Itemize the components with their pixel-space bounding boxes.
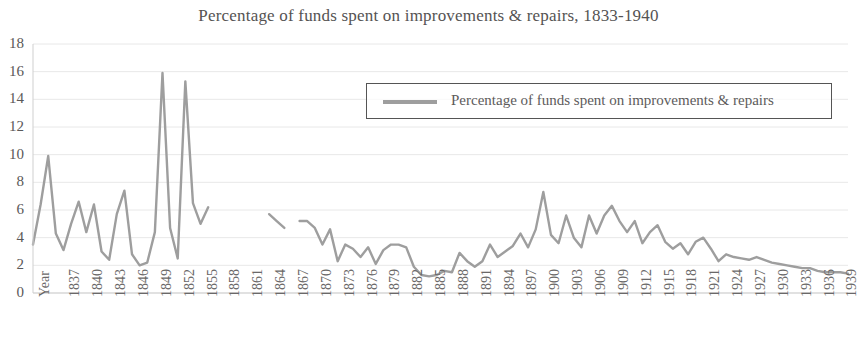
x-axis-tick-label: 1912 [640, 269, 654, 297]
x-axis-tick-label: 1939 [845, 269, 857, 297]
x-axis-tick-label: 1885 [434, 269, 448, 297]
y-axis-tick-label: 18 [2, 36, 24, 51]
x-axis-tick-label: 1936 [823, 269, 837, 297]
y-axis-tick-label: 12 [2, 119, 24, 134]
x-axis-tick-label: 1930 [777, 269, 791, 297]
x-axis-tick-label: 1921 [708, 269, 722, 297]
x-axis-tick-label: 1900 [548, 269, 562, 297]
series-line [300, 192, 848, 276]
x-axis-tick-label: 1852 [183, 269, 197, 297]
x-axis-tick-label: 1870 [320, 269, 334, 297]
x-axis-tick-label: 1933 [800, 269, 814, 297]
x-axis-tick-label: 1924 [731, 269, 745, 297]
x-axis-tick-label: 1897 [525, 269, 539, 297]
legend-line-swatch [383, 100, 437, 104]
x-axis-tick-label: 1927 [754, 269, 768, 297]
x-axis-tick-label: 1858 [228, 269, 242, 297]
x-axis-tick-label: Year [38, 271, 52, 297]
series-line [33, 73, 208, 265]
x-axis-tick-label: 1915 [663, 269, 677, 297]
x-axis-tick-label: 1861 [251, 269, 265, 297]
y-axis-tick-label: 0 [2, 285, 24, 300]
x-axis-tick-label: 1873 [343, 269, 357, 297]
x-axis-tick-label: 1888 [457, 269, 471, 297]
series-line [269, 214, 284, 228]
x-axis-tick-label: 1879 [388, 269, 402, 297]
x-axis-tick-label: 1891 [480, 269, 494, 297]
y-axis-tick-label: 10 [2, 147, 24, 162]
x-axis-tick-label: 1903 [571, 269, 585, 297]
y-axis-tick-label: 2 [2, 257, 24, 272]
x-axis-tick-label: 1894 [503, 269, 517, 297]
legend: Percentage of funds spent on improvement… [366, 83, 832, 119]
x-axis-tick-label: 1864 [274, 269, 288, 297]
x-axis-tick-label: 1906 [594, 269, 608, 297]
x-axis-tick-label: 1909 [617, 269, 631, 297]
chart-container: Percentage of funds spent on improvement… [0, 0, 857, 358]
x-axis-tick-label: 1849 [160, 269, 174, 297]
plot-area [0, 0, 857, 358]
y-axis-tick-label: 16 [2, 64, 24, 79]
x-axis-tick-label: 1840 [91, 269, 105, 297]
x-axis-tick-label: 1918 [685, 269, 699, 297]
y-axis-tick-label: 4 [2, 230, 24, 245]
x-axis-tick-label: 1843 [114, 269, 128, 297]
y-axis-tick-label: 14 [2, 91, 24, 106]
x-axis-tick-label: 1846 [137, 269, 151, 297]
x-axis-tick-label: 1876 [366, 269, 380, 297]
x-axis-tick-label: 1867 [297, 269, 311, 297]
y-axis-tick-label: 6 [2, 202, 24, 217]
legend-label: Percentage of funds spent on improvement… [451, 92, 774, 109]
y-axis-tick-label: 8 [2, 174, 24, 189]
x-axis-tick-label: 1882 [411, 269, 425, 297]
x-axis-tick-label: 1837 [68, 269, 82, 297]
x-axis-tick-label: 1855 [206, 269, 220, 297]
